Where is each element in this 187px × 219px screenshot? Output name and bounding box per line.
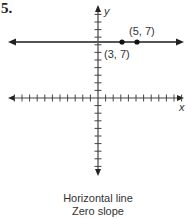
x-axis [8, 95, 184, 102]
y-axis [95, 5, 102, 176]
caption-title: Horizontal line [0, 192, 187, 205]
line-left-arrow-icon [8, 39, 16, 46]
line-right-arrow-icon [176, 39, 184, 46]
y-axis-down-arrow-icon [95, 169, 101, 176]
point-5-7 [134, 39, 139, 44]
caption-subtitle: Zero slope [0, 205, 187, 218]
y-axis-label: y [103, 5, 111, 17]
coordinate-plane: (3, 7) (5, 7) y x [0, 0, 187, 219]
point-3-7 [119, 39, 124, 44]
point-label-5-7: (5, 7) [129, 25, 155, 37]
x-axis-label: x [178, 101, 185, 113]
y-axis-up-arrow-icon [95, 5, 101, 12]
point-label-3-7: (3, 7) [104, 48, 130, 60]
